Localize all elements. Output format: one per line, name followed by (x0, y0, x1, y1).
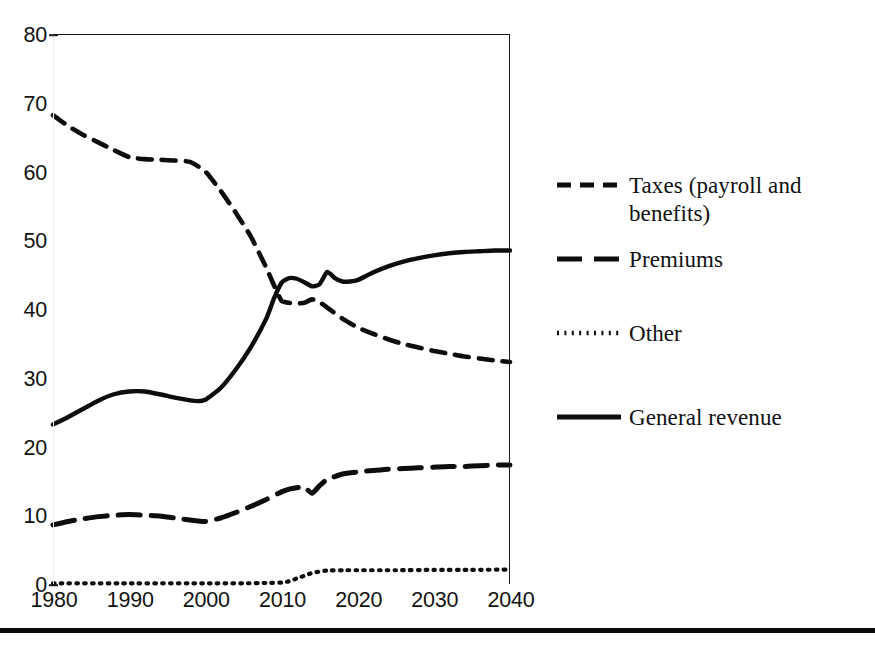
dotted-line-icon (556, 320, 622, 346)
legend-item[interactable]: General revenue (556, 404, 782, 432)
solid-line-icon (556, 404, 622, 430)
x-axis-tick-label: 1990 (107, 588, 154, 613)
x-axis-tick-label: 2030 (411, 588, 458, 613)
legend-item-label: General revenue (629, 404, 782, 432)
y-axis-tick-label: 20 (23, 435, 54, 460)
legend-item[interactable]: Other (556, 320, 682, 348)
chart-figure: 01020304050607080 1980199020002010202020… (0, 0, 875, 653)
y-axis-tick-mark (49, 34, 58, 36)
y-axis-tick-label: 30 (23, 366, 54, 391)
y-axis-tick-label: 40 (23, 298, 54, 323)
legend-item-label: Other (629, 320, 682, 348)
y-axis-tick-label: 50 (23, 229, 54, 254)
short-dash-line-icon (556, 172, 622, 198)
x-axis-tick-label: 2010 (259, 588, 306, 613)
page-bottom-rule (0, 628, 875, 633)
plot-frame: 01020304050607080 1980199020002010202020… (53, 34, 510, 584)
x-axis-tick-label: 2040 (487, 588, 534, 613)
y-axis-tick-label: 70 (23, 91, 54, 116)
x-axis-tick-label: 2020 (335, 588, 382, 613)
legend-item-label: Taxes (payroll and benefits) (629, 172, 802, 228)
legend-item[interactable]: Premiums (556, 246, 723, 274)
y-axis-tick-label: 60 (23, 160, 54, 185)
long-dash-line-icon (556, 246, 622, 272)
legend-item[interactable]: Taxes (payroll and benefits) (556, 172, 802, 228)
x-axis-tick-label: 1980 (30, 588, 77, 613)
y-axis-tick-mark (49, 584, 58, 586)
y-axis-tick-label: 10 (23, 504, 54, 529)
x-axis-tick-label: 2000 (183, 588, 230, 613)
legend-item-label: Premiums (629, 246, 723, 274)
